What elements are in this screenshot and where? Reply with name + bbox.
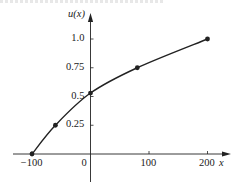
data-point-marker [30, 152, 35, 157]
data-point-marker [88, 91, 93, 96]
x-axis-arrow-icon [222, 151, 231, 156]
x-axis-label: x [219, 158, 224, 169]
y-tick-label: 0.5 [71, 91, 84, 102]
data-point-markers [30, 37, 210, 157]
y-tick-label: 0.25 [66, 119, 84, 130]
x-tick-label: 100 [141, 158, 157, 169]
ticks [32, 39, 208, 154]
data-point-marker [135, 65, 140, 70]
y-axis-label: u(x) [68, 9, 85, 20]
x-tick-label: 200 [199, 158, 215, 169]
y-tick-label: 0.75 [66, 62, 84, 73]
x-tick-label: 0 [82, 158, 87, 169]
utility-curve [32, 39, 208, 154]
y-axis-arrow-icon [88, 13, 93, 22]
x-tick-label: −100 [21, 158, 43, 169]
data-point-marker [205, 37, 210, 42]
data-point-marker [53, 123, 58, 128]
y-tick-label: 1.0 [71, 33, 84, 44]
